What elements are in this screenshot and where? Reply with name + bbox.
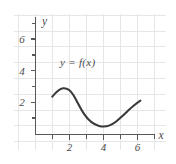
y-axis-label: y <box>41 15 48 28</box>
chart-canvas: 6 4 2 2 4 6 y x y = f(x) <box>0 0 176 164</box>
y-axis-tick-label-2: 2 <box>19 96 25 108</box>
y-axis-tick-label-4: 4 <box>19 65 25 77</box>
curve-equation-label: y = f(x) <box>59 56 96 69</box>
y-axis-tick-label-6: 6 <box>19 33 25 45</box>
x-axis-tick-label-2: 2 <box>67 141 73 153</box>
x-axis-ticks <box>53 135 155 141</box>
function-graph-figure: 6 4 2 2 4 6 y x y = f(x) <box>0 0 176 164</box>
grid-lines <box>14 14 166 150</box>
x-axis-tick-label-6: 6 <box>135 141 141 153</box>
x-axis-tick-label-4: 4 <box>101 141 107 153</box>
x-axis-label: x <box>157 129 164 141</box>
